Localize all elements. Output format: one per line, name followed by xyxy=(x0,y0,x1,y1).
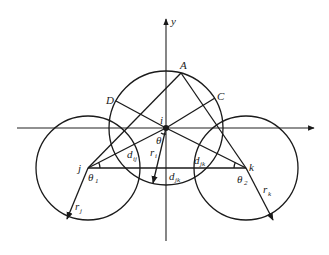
label-r-i-sub: i xyxy=(155,152,157,160)
label-j: j xyxy=(76,162,81,174)
line-j-A xyxy=(88,73,181,168)
label-i: i xyxy=(160,114,163,126)
label-k: k xyxy=(249,161,255,173)
label-theta2: θ xyxy=(237,173,243,185)
label-d-jk-sub: jk xyxy=(174,176,181,184)
line-A-k xyxy=(181,73,246,168)
label-A: A xyxy=(179,59,187,71)
label-d-ij-sub: ij xyxy=(133,155,137,163)
label-r-j-sub: j xyxy=(79,207,82,215)
geometry-diagram: y A D C i j k θ θ 1 θ 2 d ij d jk d jk r… xyxy=(0,0,329,255)
y-axis-label: y xyxy=(170,15,176,27)
label-theta2-sub: 2 xyxy=(244,179,248,187)
label-theta1-sub: 1 xyxy=(95,177,99,185)
label-C: C xyxy=(217,90,225,102)
label-r-k-sub: k xyxy=(268,190,272,198)
line-D-i xyxy=(116,101,166,128)
point-i-dot xyxy=(163,125,169,131)
label-d-ik-sub: jk xyxy=(199,160,206,168)
label-theta1: θ xyxy=(88,171,94,183)
label-D: D xyxy=(105,94,114,106)
label-theta: θ xyxy=(156,134,162,146)
angle-arc-theta1 xyxy=(99,163,100,169)
angle-arc-theta2 xyxy=(234,163,235,169)
